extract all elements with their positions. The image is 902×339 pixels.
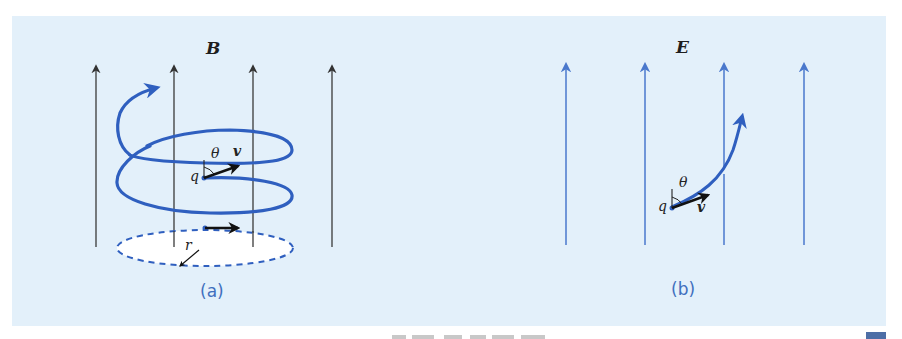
helical-trajectory <box>117 88 292 213</box>
angle-arc-a <box>204 167 214 174</box>
sublabel-b: (b) <box>671 279 695 299</box>
panel-a-diagram <box>96 66 332 266</box>
sublabel-a: (a) <box>200 281 224 301</box>
angle-label-b: θ <box>679 174 687 190</box>
charge-label-a: q <box>190 168 199 184</box>
electric-field-lines <box>566 64 804 245</box>
panel-b-diagram <box>566 64 804 245</box>
figure-drawing <box>0 0 902 339</box>
charge-label-b: q <box>658 198 667 214</box>
velocity-label-b: v <box>697 199 705 215</box>
field-label-B: B <box>206 38 220 58</box>
page-corner-marker <box>866 332 886 339</box>
velocity-label-a: v <box>233 143 241 159</box>
parabolic-trajectory <box>672 117 742 207</box>
caption-cutoff <box>0 330 902 339</box>
angle-label-a: θ <box>211 145 219 161</box>
projection-ellipse <box>117 230 293 266</box>
radius-label: r <box>185 237 192 253</box>
field-label-E: E <box>676 37 689 57</box>
